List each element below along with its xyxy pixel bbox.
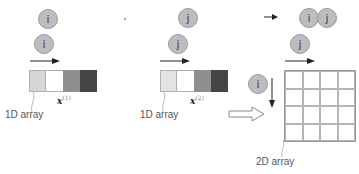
array-cell	[194, 70, 211, 92]
1d-array-label: 1D array	[140, 109, 178, 120]
1d-array-2	[160, 70, 228, 92]
grid-cell	[338, 71, 356, 89]
2d-array-label: 2D array	[256, 156, 294, 167]
index-circle-j-combined: j	[317, 8, 337, 28]
grid-cell	[303, 106, 321, 124]
grid-cell	[285, 89, 303, 107]
vector-label-x1: x(1)	[57, 94, 71, 106]
index-label: i	[256, 78, 259, 91]
array-cell	[211, 70, 228, 92]
arrow-right-icon	[160, 58, 190, 64]
dot-separator	[124, 18, 126, 20]
grid-cell	[303, 89, 321, 107]
array-cell	[63, 70, 80, 92]
transform-arrow-icon	[228, 106, 266, 122]
array-cell	[160, 70, 177, 92]
index-label: i	[307, 12, 310, 25]
arrow-right-icon	[264, 14, 278, 20]
grid-cell	[320, 124, 338, 142]
1d-array-1	[29, 70, 97, 92]
grid-cell	[303, 124, 321, 142]
vector-label-x2: x(2)	[190, 94, 204, 106]
grid-cell	[320, 71, 338, 89]
grid-cell	[338, 89, 356, 107]
index-circle-i-combined: i	[299, 8, 319, 28]
grid-cell	[338, 106, 356, 124]
grid-cell	[285, 124, 303, 142]
arrow-right-icon	[30, 58, 60, 64]
2d-array-grid	[284, 70, 356, 142]
arrow-right-icon	[285, 58, 315, 64]
array-cell	[46, 70, 63, 92]
index-circle-i-top: i	[38, 9, 58, 29]
index-label: j	[186, 12, 189, 25]
index-label: j	[176, 38, 179, 51]
index-label: j	[325, 12, 328, 25]
grid-cell	[303, 71, 321, 89]
grid-cell	[285, 106, 303, 124]
index-circle-j: j	[290, 34, 310, 54]
array-cell	[177, 70, 194, 92]
arrow-down-icon	[269, 78, 275, 108]
1d-array-label: 1D array	[5, 109, 43, 120]
grid-cell	[320, 106, 338, 124]
array-cell	[80, 70, 97, 92]
index-circle-i: i	[34, 34, 54, 54]
grid-cell	[285, 71, 303, 89]
grid-cell	[338, 124, 356, 142]
index-circle-j-top: j	[178, 8, 198, 28]
array-cell	[29, 70, 46, 92]
index-label: i	[46, 13, 49, 26]
index-circle-i: i	[248, 74, 268, 94]
index-label: i	[42, 38, 45, 51]
index-label: j	[298, 38, 301, 51]
index-circle-j: j	[168, 34, 188, 54]
grid-cell	[320, 89, 338, 107]
